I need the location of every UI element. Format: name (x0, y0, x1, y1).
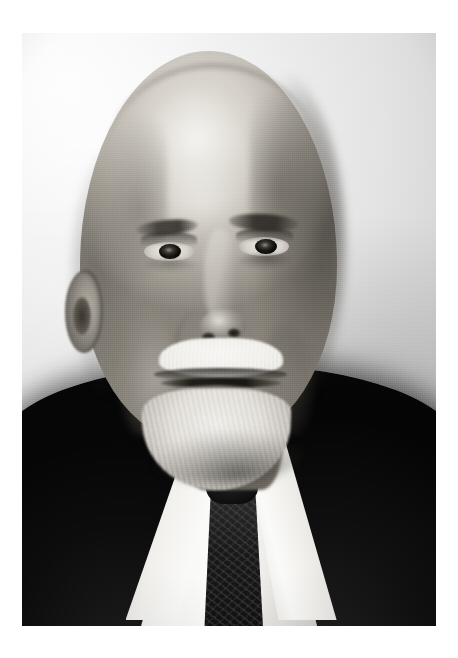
left-ear-inner (73, 297, 90, 336)
page-root (0, 0, 458, 658)
iris-left (159, 244, 181, 259)
necktie-body (200, 496, 266, 626)
portrait-photograph (22, 33, 436, 626)
undereye-shadow-left (140, 259, 200, 279)
iris-right (255, 239, 277, 254)
jaw-shadow (138, 413, 304, 484)
eyelid-left (141, 232, 196, 245)
undereye-shadow-right (235, 254, 297, 275)
eyelid-right (236, 228, 292, 241)
